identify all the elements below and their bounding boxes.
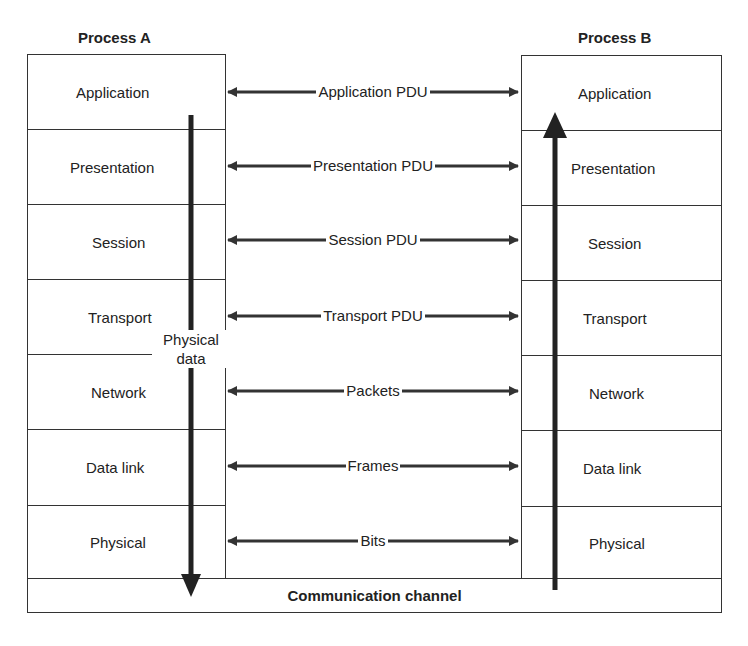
pdu-frames: Frames (225, 456, 521, 476)
pdu-transport: Transport PDU (225, 306, 521, 326)
down-arrow-head (181, 574, 201, 597)
up-arrow-head (543, 112, 567, 138)
pdu-packets: Packets (225, 381, 521, 401)
pdu-application: Application PDU (225, 82, 521, 102)
pdu-session: Session PDU (225, 230, 521, 250)
pdu-presentation: Presentation PDU (225, 156, 521, 176)
pdu-bits: Bits (225, 531, 521, 551)
physical-data-label: Physical data (152, 330, 230, 368)
